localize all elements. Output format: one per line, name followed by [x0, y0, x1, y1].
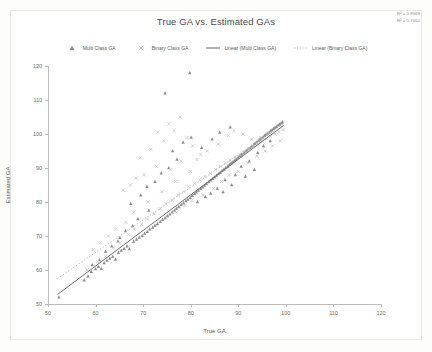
dotted-line-icon — [294, 44, 308, 52]
x-axis-tick-label: 60 — [93, 310, 99, 316]
legend-item-binary-class-ga[interactable]: Binary Class GA — [134, 44, 189, 52]
y-axis-tick-label: 100 — [33, 131, 42, 137]
r-squared-annotations: R² = 0.8569 R² = 0.7054 — [397, 11, 420, 24]
legend-item-label: Binary Class GA — [152, 45, 189, 51]
x-axis-line — [48, 304, 381, 305]
y-axis-tick — [45, 134, 48, 135]
data-points-layer — [48, 66, 381, 304]
y-axis-tick-label: 70 — [36, 233, 42, 239]
x-axis-tick — [381, 304, 382, 307]
plot-area: True GA Estimated GA 5060708090100110120… — [48, 66, 381, 304]
y-axis-tick — [45, 202, 48, 203]
legend-item-linear-multi-class-ga-[interactable]: Linear (Multi Class GA) — [206, 44, 276, 52]
y-axis-tick — [45, 270, 48, 271]
x-axis-tick — [333, 304, 334, 307]
x-axis-tick-label: 70 — [140, 310, 146, 316]
y-axis-title: Estimated GA — [5, 166, 11, 203]
x-axis-tick-label: 90 — [235, 310, 241, 316]
legend-item-label: Linear (Multi Class GA) — [224, 45, 276, 51]
x-icon — [134, 44, 148, 52]
chart-legend: Multi Class GABinary Class GALinear (Mul… — [0, 44, 432, 52]
triangle-icon — [65, 44, 79, 52]
chart-container: True GA vs. Estimated GAs R² = 0.8569 R²… — [0, 0, 432, 352]
y-axis-tick — [45, 236, 48, 237]
y-axis-tick-label: 80 — [36, 199, 42, 205]
y-axis-tick — [45, 66, 48, 67]
trendline-linear-multi-class-ga- — [58, 126, 284, 295]
y-axis-tick-label: 110 — [33, 97, 42, 103]
y-axis-tick-label: 90 — [36, 165, 42, 171]
x-axis-tick — [96, 304, 97, 307]
x-axis-tick-label: 100 — [281, 310, 290, 316]
x-axis-tick-label: 120 — [377, 310, 386, 316]
r-squared-binary-class: R² = 0.7054 — [397, 18, 420, 25]
series-binary-class-ga — [85, 115, 284, 271]
x-axis-tick-label: 50 — [45, 310, 51, 316]
x-axis-tick-label: 80 — [188, 310, 194, 316]
x-axis-tick — [143, 304, 144, 307]
x-axis-tick — [191, 304, 192, 307]
legend-item-linear-binary-class-ga-[interactable]: Linear (Binary Class GA) — [294, 44, 367, 52]
x-axis-title: True GA — [48, 328, 381, 334]
legend-item-multi-class-ga[interactable]: Multi Class GA — [65, 44, 116, 52]
chart-title: True GA vs. Estimated GAs — [0, 16, 432, 27]
x-axis-tick-label: 110 — [329, 310, 338, 316]
x-axis-tick — [238, 304, 239, 307]
r-squared-multi-class: R² = 0.8569 — [397, 11, 420, 18]
y-axis-tick-label: 60 — [36, 267, 42, 273]
y-axis-tick-label: 50 — [36, 301, 42, 307]
y-axis-tick — [45, 168, 48, 169]
x-axis-tick — [48, 304, 49, 307]
x-axis-tick — [286, 304, 287, 307]
y-axis-tick — [45, 100, 48, 101]
y-axis-tick-label: 120 — [33, 63, 42, 69]
solid-line-icon — [206, 44, 220, 52]
legend-item-label: Linear (Binary Class GA) — [312, 45, 367, 51]
series-multi-class-ga — [57, 71, 284, 299]
legend-item-label: Multi Class GA — [83, 45, 116, 51]
